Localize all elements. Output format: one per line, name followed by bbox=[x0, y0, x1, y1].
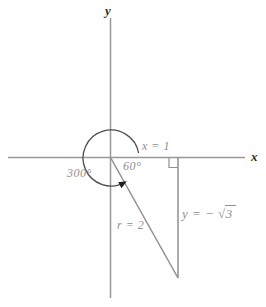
reference-angle-label: 60° bbox=[123, 160, 141, 172]
hypotenuse-label: r = 2 bbox=[117, 219, 144, 231]
trig-angle-diagram: y x x = 1 60° 300° r = 2 y = − √3 bbox=[0, 0, 266, 307]
y-leg-label-prefix: y = − bbox=[182, 206, 214, 221]
sqrt-expression: √3 bbox=[218, 205, 236, 220]
x-leg-label: x = 1 bbox=[142, 140, 170, 152]
diagram-canvas bbox=[0, 0, 266, 307]
y-axis-label: y bbox=[105, 4, 111, 17]
sqrt-radicand: 3 bbox=[225, 205, 236, 220]
right-angle-marker bbox=[169, 158, 178, 168]
x-axis-label: x bbox=[251, 150, 258, 163]
rotation-angle-label: 300° bbox=[67, 167, 92, 179]
y-leg-label: y = − √3 bbox=[182, 205, 236, 220]
